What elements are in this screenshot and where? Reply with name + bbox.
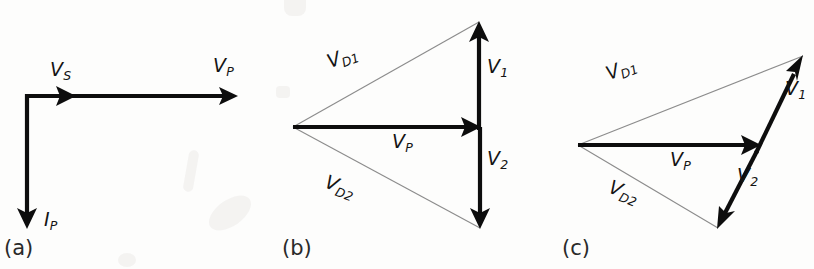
- label-b-v2-base: V: [487, 147, 500, 169]
- label-a-ip-base: I: [44, 208, 50, 230]
- label-a-ip: IP: [44, 210, 57, 229]
- label-c-v1-sub: 1: [798, 87, 806, 102]
- vector-c-vd2-line: [578, 145, 718, 228]
- label-a-vp-base: V: [213, 54, 226, 76]
- label-a-vp: VP: [213, 56, 234, 75]
- label-c-v2-base: V: [737, 164, 750, 186]
- label-b-vp: VP: [392, 132, 413, 151]
- vector-b-vd2-line: [293, 127, 480, 228]
- label-c-v1: V1: [785, 79, 806, 98]
- vector-b-vd1-line: [293, 22, 479, 127]
- label-b-v1-base: V: [487, 55, 500, 77]
- label-b-v1: V1: [487, 57, 508, 76]
- panel-b-vectors: [293, 21, 490, 229]
- panel-a-vectors: [17, 86, 238, 229]
- label-a-vs: VS: [50, 60, 71, 79]
- label-c-v1-base: V: [785, 77, 798, 99]
- label-a-vp-sub: P: [226, 64, 234, 79]
- label-c-v2: V2: [737, 166, 758, 185]
- figure-canvas: VS VP IP (a) VD1 VD2 VP V1 V2 (b) VD1 VD…: [0, 0, 814, 269]
- label-b-v2: V2: [487, 149, 508, 168]
- cropped-caption-strip: [0, 253, 814, 269]
- label-b-v2-sub: 2: [500, 157, 508, 172]
- label-c-vp: VP: [670, 150, 691, 169]
- label-b-vp-base: V: [392, 130, 405, 152]
- label-a-vs-base: V: [50, 58, 63, 80]
- label-a-ip-sub: P: [50, 218, 58, 233]
- label-b-vp-sub: P: [405, 140, 413, 155]
- label-a-vs-sub: S: [63, 68, 71, 83]
- label-c-v2-sub: 2: [750, 174, 758, 189]
- label-c-vp-sub: P: [683, 158, 691, 173]
- label-c-vp-base: V: [670, 148, 683, 170]
- label-b-v1-sub: 1: [500, 65, 508, 80]
